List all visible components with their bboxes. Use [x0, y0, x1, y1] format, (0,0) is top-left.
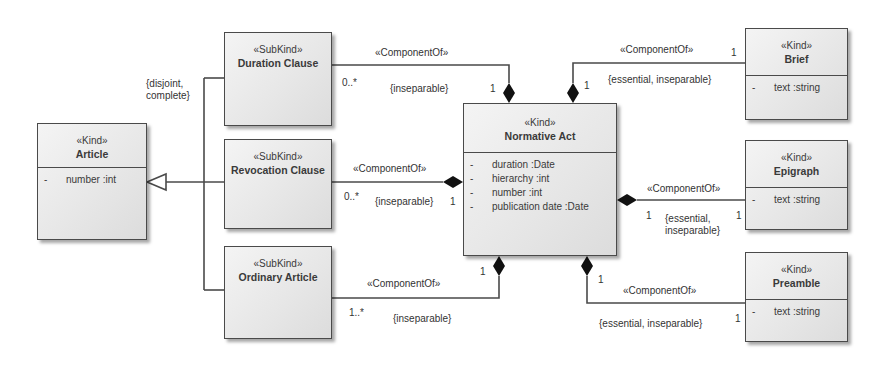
class-normative-act[interactable]: «Kind» Normative Act -duration :Date -hi…	[463, 103, 617, 256]
composition-diamond-icon	[581, 256, 593, 276]
constraint-line: {essential,	[665, 213, 720, 225]
class-ordinary-article[interactable]: «SubKind» Ordinary Article	[224, 246, 332, 339]
stereotype-label: «SubKind»	[225, 257, 331, 270]
association-stereotype: «ComponentOf»	[623, 285, 696, 297]
stereotype-label: «SubKind»	[225, 43, 331, 56]
composition-diamond-icon	[443, 176, 463, 188]
class-name: Ordinary Article	[225, 270, 331, 285]
class-name: Article	[38, 147, 146, 162]
composition-diamond-icon	[617, 194, 637, 206]
class-name: Revocation Clause	[225, 163, 331, 178]
association-stereotype: «ComponentOf»	[367, 278, 440, 290]
composition-diamond-icon	[567, 83, 579, 103]
whole-multiplicity: 1	[490, 83, 496, 95]
association-constraint: {essential, inseparable}	[665, 213, 720, 237]
visibility-marker: -	[470, 200, 492, 214]
composition-diamond-icon	[503, 83, 515, 103]
stereotype-label: «Kind»	[464, 116, 616, 129]
class-header: «Kind» Brief	[746, 29, 847, 75]
class-header: «Kind» Preamble	[746, 253, 847, 299]
attribute-text: number :int	[492, 186, 542, 200]
attribute-text: duration :Date	[492, 158, 555, 172]
association-stereotype: «ComponentOf»	[620, 44, 693, 56]
attribute-compartment: -text :string	[746, 299, 847, 324]
attribute-compartment: -duration :Date -hierarchy :int -number …	[464, 152, 616, 219]
attribute-row: -text :string	[752, 81, 841, 95]
class-header: «Kind» Normative Act	[464, 104, 616, 152]
class-name: Preamble	[746, 276, 847, 291]
class-duration-clause[interactable]: «SubKind» Duration Clause	[224, 32, 332, 126]
visibility-marker: -	[470, 172, 492, 186]
class-epigraph[interactable]: «Kind» Epigraph -text :string	[745, 140, 848, 230]
part-multiplicity: 0..*	[344, 191, 359, 203]
class-name: Brief	[746, 52, 847, 67]
whole-multiplicity: 1	[584, 80, 590, 92]
association-constraint: {essential, inseparable}	[599, 318, 702, 330]
class-article[interactable]: «Kind» Article - number :int	[37, 123, 147, 240]
attribute-text: publication date :Date	[492, 200, 589, 214]
constraint-line: complete}	[146, 90, 190, 102]
attribute-row: -number :int	[470, 186, 610, 200]
attribute-row: -text :string	[752, 305, 841, 319]
generalization-constraint: {disjoint, complete}	[146, 78, 190, 102]
visibility-marker: -	[752, 81, 774, 95]
class-header: «SubKind» Duration Clause	[225, 33, 331, 71]
part-multiplicity: 1	[731, 47, 737, 59]
class-header: «SubKind» Revocation Clause	[225, 140, 331, 178]
class-header: «Kind» Epigraph	[746, 141, 847, 187]
attribute-compartment: -text :string	[746, 75, 847, 100]
visibility-marker: -	[752, 193, 774, 207]
class-header: «SubKind» Ordinary Article	[225, 247, 331, 285]
association-constraint: {inseparable}	[390, 83, 448, 95]
class-name: Normative Act	[464, 129, 616, 144]
attribute-text: text :string	[774, 193, 820, 207]
visibility-marker: -	[470, 186, 492, 200]
visibility-marker: -	[44, 173, 66, 187]
association-stereotype: «ComponentOf»	[375, 47, 448, 59]
attribute-text: number :int	[66, 173, 116, 187]
constraint-line: inseparable}	[665, 225, 720, 237]
attribute-compartment: - number :int	[38, 167, 146, 192]
attribute-text: text :string	[774, 81, 820, 95]
attribute-row: -duration :Date	[470, 158, 610, 172]
stereotype-label: «Kind»	[746, 263, 847, 276]
whole-multiplicity: 1	[480, 266, 486, 278]
attribute-text: text :string	[774, 305, 820, 319]
association-stereotype: «ComponentOf»	[647, 183, 720, 195]
association-constraint: {essential, inseparable}	[608, 74, 711, 86]
attribute-row: -hierarchy :int	[470, 172, 610, 186]
whole-multiplicity: 1	[598, 274, 604, 286]
constraint-line: {disjoint,	[146, 78, 190, 90]
part-multiplicity: 1	[736, 210, 742, 222]
class-brief[interactable]: «Kind» Brief -text :string	[745, 28, 848, 120]
whole-multiplicity: 1	[450, 196, 456, 208]
attribute-compartment: -text :string	[746, 187, 847, 212]
stereotype-label: «SubKind»	[225, 150, 331, 163]
class-name: Epigraph	[746, 164, 847, 179]
class-revocation-clause[interactable]: «SubKind» Revocation Clause	[224, 139, 332, 229]
attribute-row: - number :int	[44, 173, 140, 187]
association-constraint: {inseparable}	[375, 196, 433, 208]
attribute-row: -publication date :Date	[470, 200, 610, 214]
stereotype-label: «Kind»	[38, 134, 146, 147]
part-multiplicity: 1	[735, 313, 741, 325]
part-multiplicity: 0..*	[342, 77, 357, 89]
stereotype-label: «Kind»	[746, 151, 847, 164]
composition-diamond-icon	[493, 256, 505, 276]
class-header: «Kind» Article	[38, 124, 146, 162]
whole-multiplicity: 1	[646, 210, 652, 222]
class-preamble[interactable]: «Kind» Preamble -text :string	[745, 252, 848, 342]
visibility-marker: -	[752, 305, 774, 319]
attribute-text: hierarchy :int	[492, 172, 549, 186]
class-name: Duration Clause	[225, 56, 331, 71]
association-constraint: {inseparable}	[393, 313, 451, 325]
part-multiplicity: 1..*	[349, 307, 364, 319]
visibility-marker: -	[470, 158, 492, 172]
association-stereotype: «ComponentOf»	[353, 163, 426, 175]
stereotype-label: «Kind»	[746, 39, 847, 52]
generalization-arrow-icon	[147, 174, 166, 190]
attribute-row: -text :string	[752, 193, 841, 207]
